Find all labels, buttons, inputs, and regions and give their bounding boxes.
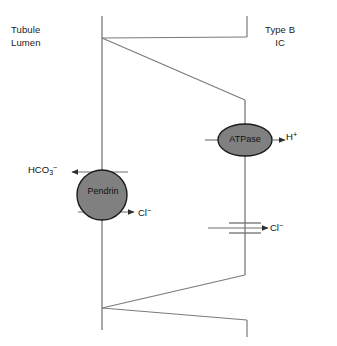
cl-basolateral-superscript: −: [279, 221, 283, 230]
cell-outline-top-upper: [102, 37, 247, 38]
type-b-ic-label: Type B IC: [265, 24, 295, 49]
cell-outline-bottom-lower: [102, 308, 247, 320]
hco3-text: HCO: [28, 164, 49, 175]
tubule-lumen-label: Tubule Lumen: [11, 24, 41, 49]
type-b-ic-line1: Type B: [265, 24, 295, 37]
cl-basolateral-text: Cl: [270, 222, 279, 233]
pendrin-transporter[interactable]: [77, 170, 127, 220]
h-plus-superscript: +: [293, 130, 297, 139]
tubule-lumen-line1: Tubule: [11, 24, 41, 37]
diagram-canvas: Tubule Lumen Type B IC HCO3− Cl− H+ Cl− …: [0, 0, 337, 346]
hco3-superscript: −: [53, 163, 57, 172]
caption-strip: [0, 341, 337, 346]
tubule-lumen-line2: Lumen: [11, 37, 41, 50]
cl-apical-text: Cl: [138, 207, 147, 218]
type-b-ic-line2: IC: [265, 37, 295, 50]
cl-apical-superscript: −: [147, 206, 151, 215]
cell-outline-top-lower: [102, 38, 245, 100]
cl-basolateral-label: Cl−: [270, 221, 283, 233]
hco3-label: HCO3−: [28, 163, 57, 176]
h-plus-text: H: [286, 131, 293, 142]
cell-outline-bottom-upper: [102, 275, 245, 308]
cl-apical-label: Cl−: [138, 206, 151, 218]
atpase-pump[interactable]: [218, 124, 272, 156]
h-plus-label: H+: [286, 130, 297, 142]
